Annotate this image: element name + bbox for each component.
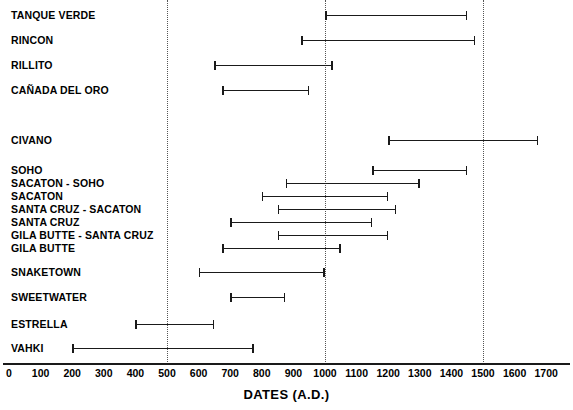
- x-tick-label: 200: [63, 367, 81, 379]
- x-tick-label: 0: [6, 367, 12, 379]
- row-label: SANTA CRUZ: [11, 215, 80, 229]
- x-tick-label: 1700: [535, 367, 558, 379]
- x-tick-label: 1100: [345, 367, 368, 379]
- x-tick-label: 1500: [471, 367, 494, 379]
- range-end-cap: [387, 231, 389, 240]
- chart-row: GILA BUTTE: [0, 241, 573, 255]
- chart-row: SWEETWATER: [0, 290, 573, 304]
- range-start-cap: [372, 166, 374, 175]
- range-start-cap: [325, 11, 327, 20]
- range-end-cap: [331, 61, 333, 70]
- range-bar: [222, 247, 341, 249]
- row-label: RILLITO: [11, 58, 53, 72]
- range-end-cap: [387, 192, 389, 201]
- range-start-cap: [135, 320, 137, 329]
- chart-row: SACATON: [0, 189, 573, 203]
- chart-row: SANTA CRUZ - SACATON: [0, 202, 573, 216]
- range-start-cap: [278, 231, 280, 240]
- row-label: GILA BUTTE - SANTA CRUZ: [11, 228, 153, 242]
- range-line: [388, 140, 538, 141]
- range-end-cap: [213, 320, 215, 329]
- range-start-cap: [230, 293, 232, 302]
- range-end-cap: [466, 166, 468, 175]
- plot-area: TANQUE VERDERINCONRILLITOCAÑADA DEL OROC…: [0, 0, 573, 364]
- chart-row: SANTA CRUZ: [0, 215, 573, 229]
- chart-row: CAÑADA DEL ORO: [0, 83, 573, 97]
- range-end-cap: [537, 136, 539, 145]
- range-start-cap: [230, 218, 232, 227]
- range-bar: [199, 271, 325, 273]
- range-end-cap: [395, 205, 397, 214]
- chart-row: VAHKI: [0, 341, 573, 355]
- range-bar: [388, 139, 538, 141]
- x-axis-title: DATES (A.D.): [0, 387, 573, 402]
- range-start-cap: [286, 179, 288, 188]
- range-line: [222, 248, 341, 249]
- range-start-cap: [199, 268, 201, 277]
- range-end-cap: [339, 244, 341, 253]
- row-label: SACATON: [11, 189, 63, 203]
- range-line: [214, 65, 333, 66]
- x-tick-label: 1400: [440, 367, 463, 379]
- chart-row: RINCON: [0, 33, 573, 47]
- range-start-cap: [222, 86, 224, 95]
- x-tick-label: 800: [253, 367, 271, 379]
- chart-row: CIVANO: [0, 133, 573, 147]
- range-line: [230, 297, 285, 298]
- range-bar: [278, 208, 397, 210]
- chart-row: GILA BUTTE - SANTA CRUZ: [0, 228, 573, 242]
- row-label: RINCON: [11, 33, 53, 47]
- range-start-cap: [222, 244, 224, 253]
- row-label: SWEETWATER: [11, 290, 87, 304]
- range-bar: [372, 169, 467, 171]
- chart-row: ESTRELLA: [0, 317, 573, 331]
- range-bar: [278, 234, 389, 236]
- x-tick-label: 1600: [503, 367, 526, 379]
- range-start-cap: [301, 36, 303, 45]
- row-label: SNAKETOWN: [11, 265, 81, 279]
- range-line: [230, 222, 372, 223]
- range-end-cap: [323, 268, 325, 277]
- range-line: [325, 15, 467, 16]
- range-bar: [301, 39, 475, 41]
- range-line: [199, 272, 325, 273]
- range-end-cap: [284, 293, 286, 302]
- row-label: SOHO: [11, 163, 43, 177]
- range-end-cap: [308, 86, 310, 95]
- row-label: GILA BUTTE: [11, 241, 75, 255]
- range-line: [72, 348, 254, 349]
- x-tick-label: 100: [32, 367, 50, 379]
- row-label: SACATON - SOHO: [11, 176, 104, 190]
- range-start-cap: [72, 344, 74, 353]
- x-tick-label: 1300: [408, 367, 431, 379]
- range-bar: [72, 347, 254, 349]
- range-end-cap: [418, 179, 420, 188]
- row-label: VAHKI: [11, 341, 44, 355]
- x-tick-label: 600: [190, 367, 208, 379]
- range-bar: [135, 323, 214, 325]
- range-bar: [262, 195, 388, 197]
- range-bar: [230, 221, 372, 223]
- x-tick-label: 700: [221, 367, 239, 379]
- chronology-chart: TANQUE VERDERINCONRILLITOCAÑADA DEL OROC…: [0, 0, 573, 410]
- range-line: [262, 196, 388, 197]
- range-line: [222, 90, 309, 91]
- row-label: ESTRELLA: [11, 317, 68, 331]
- range-bar: [214, 64, 333, 66]
- x-tick-label: 1200: [377, 367, 400, 379]
- chart-row: TANQUE VERDE: [0, 8, 573, 22]
- chart-row: SACATON - SOHO: [0, 176, 573, 190]
- range-start-cap: [388, 136, 390, 145]
- x-tick-label: 500: [158, 367, 176, 379]
- axis-line: [3, 363, 570, 365]
- x-axis: DATES (A.D.) 010020030040050060070080090…: [0, 363, 573, 410]
- chart-row: SNAKETOWN: [0, 265, 573, 279]
- range-start-cap: [214, 61, 216, 70]
- range-end-cap: [252, 344, 254, 353]
- range-line: [278, 209, 397, 210]
- row-label: CAÑADA DEL ORO: [11, 83, 109, 97]
- chart-row: RILLITO: [0, 58, 573, 72]
- range-line: [286, 183, 420, 184]
- chart-row: SOHO: [0, 163, 573, 177]
- range-bar: [222, 89, 309, 91]
